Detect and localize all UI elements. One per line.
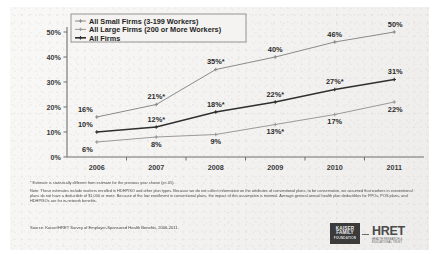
data-point-label: 22%* [266,90,284,99]
slide-canvas: 0%10%20%30%40%50%20062007200820092010201… [0,0,437,254]
y-axis-tick-label: 30% [47,78,62,87]
data-point-label: 18%* [207,100,225,109]
data-point-label: 16% [78,105,93,114]
kaiser-family-foundation-logo: KAISER FAMILY FOUNDATION [330,223,360,244]
data-point-label: 10% [78,120,93,129]
series-marker [95,140,98,143]
line-chart: 0%10%20%30%40%50%20062007200820092010201… [0,0,437,178]
y-axis-tick-label: 10% [47,128,62,137]
hret-wordmark: HRET [372,225,405,238]
logo-group: KAISER FAMILY FOUNDATION HRET HEALTH RES… [330,222,430,248]
data-point-label: 12%* [147,115,165,124]
series-marker [393,78,396,81]
series-marker [95,115,98,118]
footnote-note: Note: These estimates include workers en… [30,188,422,203]
data-point-label: 13%* [266,127,284,136]
data-point-label: 50% [388,20,403,29]
slide-margin-bottom [0,250,437,254]
data-point-label: 22% [388,105,403,114]
series-marker [155,125,158,128]
logo-divider-dash-icon [362,233,369,235]
series-marker [333,113,336,116]
data-point-label: 27%* [326,77,344,86]
series-marker [274,100,277,103]
data-point-label: 46% [327,30,342,39]
legend-label: All Firms [89,34,120,43]
data-point-label: 8% [151,140,162,149]
y-axis-tick-label: 50% [47,28,62,37]
data-point-label: 31% [388,67,403,76]
series-marker [333,40,336,43]
series-marker [393,100,396,103]
data-point-label: 35%* [207,57,225,66]
x-axis-tick-label: 2007 [148,163,164,172]
data-point-label: 9% [210,137,221,146]
chart-plot-area: 0%10%20%30%40%50%20062007200820092010201… [0,0,437,178]
hret-sub-line-2: EDUCATIONAL TRUST [372,241,405,244]
x-axis-tick-label: 2010 [327,163,343,172]
data-point-label: 40% [268,45,283,54]
hret-logo: HRET HEALTH RESEARCH & EDUCATIONAL TRUST [372,225,405,244]
series-marker [393,30,396,33]
series-marker [274,55,277,58]
series-marker [155,135,158,138]
series-marker [333,88,336,91]
x-axis-tick-label: 2006 [89,163,105,172]
x-axis-tick-label: 2011 [386,163,402,172]
x-axis-tick-label: 2008 [208,163,224,172]
series-marker [214,110,217,113]
series-line [97,80,395,133]
data-point-label: 6% [82,145,93,154]
y-axis-tick-label: 20% [47,103,62,112]
footnote-significance: * Estimate is statistically different fr… [30,180,422,185]
series-line [97,32,395,117]
series-marker [274,123,277,126]
series-marker [95,130,98,133]
series-marker [214,133,217,136]
y-axis-tick-label: 0% [51,153,62,162]
data-point-label: 17% [327,117,342,126]
kff-line-3: FOUNDATION [330,236,360,240]
data-point-label: 21%* [147,92,165,101]
y-axis-tick-label: 40% [47,53,62,62]
x-axis-tick-label: 2009 [267,163,283,172]
